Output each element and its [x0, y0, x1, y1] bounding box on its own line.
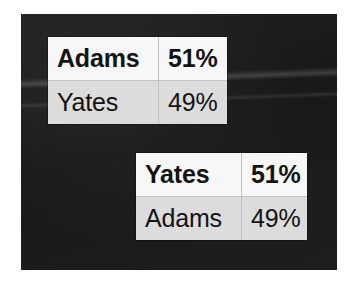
candidate-percent-cell: 51%: [242, 153, 308, 197]
table-row: Yates 51%: [136, 153, 307, 197]
table-row: Adams 51%: [48, 37, 227, 81]
table-row: Yates 49%: [48, 81, 227, 125]
candidate-name-cell: Yates: [136, 153, 242, 197]
candidate-percent-cell: 49%: [242, 197, 308, 241]
candidate-name-cell: Adams: [136, 197, 242, 241]
table-row: Adams 49%: [136, 197, 307, 241]
candidate-name-cell: Adams: [48, 37, 159, 81]
slide-panel: Adams 51% Yates 49% Yates 51% Adams 49%: [21, 14, 337, 270]
results-table-yates-leads: Yates 51% Adams 49%: [136, 153, 307, 240]
results-table-adams-leads: Adams 51% Yates 49%: [48, 37, 227, 124]
candidate-name-cell: Yates: [48, 81, 159, 125]
candidate-percent-cell: 49%: [159, 81, 228, 125]
candidate-percent-cell: 51%: [159, 37, 228, 81]
